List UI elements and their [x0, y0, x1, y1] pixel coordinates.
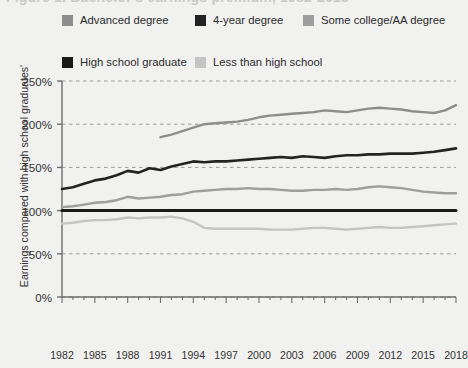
y-tick-label-250: 250%: [8, 75, 52, 88]
x-tick-label-2003: 2003: [280, 349, 304, 361]
series-line-advanced-degree: [161, 105, 457, 137]
x-tick-label-2006: 2006: [313, 349, 337, 361]
x-tick-label-2012: 2012: [379, 349, 403, 361]
series-line-some-college-aa-degree: [62, 186, 456, 207]
y-tick-label-150: 150%: [8, 161, 52, 174]
x-tick-label-2009: 2009: [346, 349, 370, 361]
series-line-less-than-high-school: [62, 217, 456, 230]
x-tick-label-1982: 1982: [50, 349, 74, 361]
series-line-4-year-degree: [62, 148, 456, 189]
x-tick-label-2018: 2018: [444, 349, 468, 361]
x-tick-label-1997: 1997: [214, 349, 238, 361]
y-tick-label-100: 100%: [8, 204, 52, 217]
x-tick-label-1994: 1994: [182, 349, 206, 361]
y-tick-label-50: 50%: [8, 247, 52, 260]
y-tick-label-0: 0%: [8, 291, 52, 304]
x-tick-label-2015: 2015: [411, 349, 435, 361]
y-axis-title: Earnings compared with high school gradu…: [18, 56, 30, 296]
x-tick-label-1988: 1988: [116, 349, 140, 361]
y-tick-label-200: 200%: [8, 118, 52, 131]
x-tick-label-1991: 1991: [149, 349, 173, 361]
x-tick-label-2000: 2000: [247, 349, 271, 361]
x-tick-label-1985: 1985: [83, 349, 107, 361]
